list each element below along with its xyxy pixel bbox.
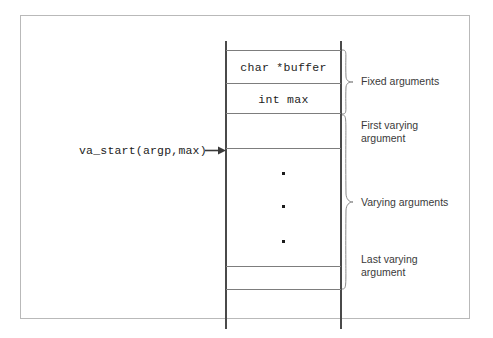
ellipsis-dot-2 <box>282 205 285 208</box>
stack-divider-5 <box>226 266 341 267</box>
side-label-fixed-arguments: Fixed arguments <box>361 75 439 88</box>
stack-cell-int-max: int max <box>226 93 341 106</box>
stack-rail-left <box>225 41 227 329</box>
curly-brace-fixed-arguments <box>341 49 355 115</box>
side-label-last-varying-argument: Last varying argument <box>361 253 418 279</box>
stack-divider-3 <box>226 113 341 114</box>
diagram-page: char *buffer int max va_start(argp,max) … <box>0 0 493 338</box>
ellipsis-dot-1 <box>282 172 285 175</box>
figure-frame: char *buffer int max va_start(argp,max) … <box>20 15 470 319</box>
side-label-first-varying-argument: First varying argument <box>361 119 418 145</box>
va-start-label: va_start(argp,max) <box>79 144 207 157</box>
ellipsis-dot-3 <box>282 240 285 243</box>
arrow-right-icon <box>205 146 226 155</box>
stack-divider-6 <box>226 289 341 290</box>
stack-cell-char-buffer: char *buffer <box>226 61 341 74</box>
stack-divider-4 <box>226 148 341 149</box>
curly-brace-varying-arguments <box>341 114 355 290</box>
stack-divider-1 <box>226 50 341 51</box>
stack-divider-2 <box>226 83 341 84</box>
side-label-varying-arguments: Varying arguments <box>361 196 448 209</box>
